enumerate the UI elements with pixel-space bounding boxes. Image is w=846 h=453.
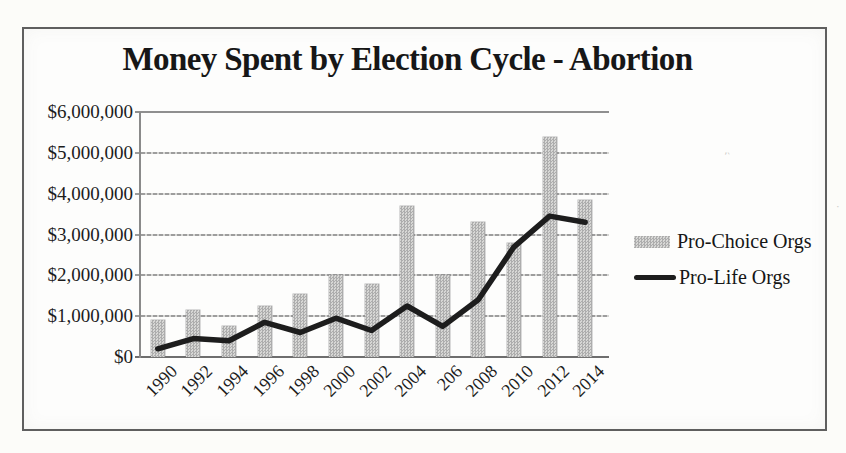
y-tick-label: $2,000,000 [48, 263, 134, 287]
y-tick-label: $6,000,000 [48, 100, 134, 124]
legend-label-pro-choice: Pro-Choice Orgs [677, 230, 812, 253]
legend: Pro-Choice Orgs Pro-Life Orgs [634, 229, 812, 301]
y-tick-label: $3,000,000 [48, 223, 134, 247]
pro-life-swatch-icon [634, 275, 676, 280]
y-tick-label: $4,000,000 [48, 182, 134, 206]
scan-artifact: · [836, 200, 840, 212]
legend-label-pro-life: Pro-Life Orgs [679, 266, 790, 289]
y-tick-label: $1,000,000 [48, 304, 134, 328]
y-tick-label: $0 [114, 345, 133, 369]
pro-choice-swatch-icon [634, 236, 670, 248]
legend-item-pro-choice: Pro-Choice Orgs [634, 229, 812, 254]
pro-life-line [140, 112, 609, 357]
chart-title: Money Spent by Election Cycle - Abortion [5, 41, 810, 78]
y-tick-label: $5,000,000 [48, 141, 134, 165]
scanned-chart-page: Money Spent by Election Cycle - Abortion… [0, 0, 846, 453]
legend-item-pro-life: Pro-Life Orgs [634, 265, 812, 290]
pro-life-line-path [158, 216, 585, 349]
